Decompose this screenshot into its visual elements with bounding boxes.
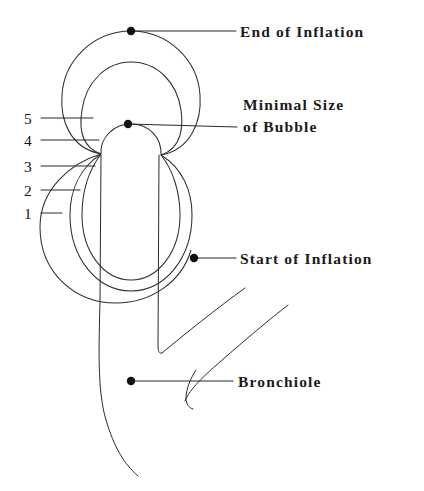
bronchiole-tube-group <box>99 155 288 476</box>
bubble-arc-stage-4 <box>81 62 182 155</box>
callout-label-minimal-size-of-bubble: Minimal Size of Bubble <box>243 94 344 138</box>
bronchiole-right-wall <box>158 155 162 353</box>
figure-root: 5 4 3 2 1 End of Inflation Minimal Size … <box>0 0 424 491</box>
callout-label-minimal-size-line-2: of Bubble <box>243 116 344 138</box>
stage-number-1: 1 <box>24 205 32 223</box>
bubble-arc-stage-3-lower <box>82 154 180 280</box>
bubble-arc-stage-2 <box>70 154 192 291</box>
callout-dot-bronchiole <box>127 377 135 385</box>
bronchiole-hook-curve <box>186 370 196 409</box>
callout-label-minimal-size-line-1: Minimal Size <box>243 94 344 116</box>
stage-number-2: 2 <box>24 182 32 200</box>
callout-dot-start-of-inflation <box>190 254 198 262</box>
bronchiole-branch-upper <box>162 288 245 353</box>
callout-leader-group <box>124 27 237 385</box>
bubble-arc-stage-1 <box>40 154 191 303</box>
callout-label-start-of-inflation: Start of Inflation <box>240 248 373 270</box>
bubble-arc-group <box>40 31 200 303</box>
stage-number-3: 3 <box>24 158 32 176</box>
stage-number-5: 5 <box>24 110 32 128</box>
stage-number-4: 4 <box>24 132 32 150</box>
callout-dot-end-of-inflation <box>127 27 135 35</box>
bronchiole-left-wall <box>99 155 138 476</box>
bubble-arc-stage-3 <box>101 124 161 155</box>
callout-label-bronchiole: Bronchiole <box>238 371 322 393</box>
callout-dot-minimal-size <box>124 120 132 128</box>
callout-label-end-of-inflation: End of Inflation <box>240 21 364 43</box>
diagram-canvas <box>0 0 424 491</box>
